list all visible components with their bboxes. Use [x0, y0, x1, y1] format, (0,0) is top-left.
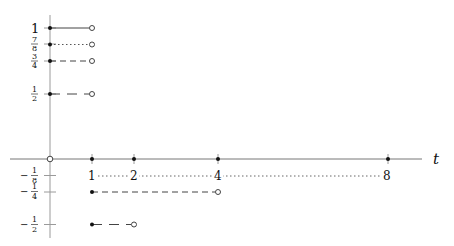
- x-label-4: 4: [214, 169, 222, 183]
- svg-text:1: 1: [32, 166, 37, 175]
- y-label-3-4: 3 4: [31, 52, 38, 70]
- x-label-2: 2: [130, 169, 138, 183]
- svg-text:2: 2: [32, 94, 37, 103]
- svg-text:7: 7: [32, 35, 37, 44]
- y-label-minus-1-2: − 1 2: [20, 215, 38, 234]
- y-label-1: 1: [31, 21, 39, 36]
- svg-text:1: 1: [32, 215, 37, 224]
- x-label-1: 1: [88, 169, 96, 183]
- svg-text:−: −: [20, 219, 28, 230]
- y-label-7-8: 7 8: [31, 35, 38, 53]
- svg-text:1: 1: [32, 182, 37, 191]
- svg-text:4: 4: [32, 61, 37, 70]
- y-label-1-2: 1 2: [31, 85, 38, 103]
- svg-text:1: 1: [32, 85, 37, 94]
- y-label-minus-1-4: − 1 4: [20, 182, 38, 201]
- svg-text:−: −: [20, 186, 28, 197]
- filled-markers: [48, 26, 390, 227]
- x-axis-label: t: [433, 150, 440, 168]
- svg-text:4: 4: [32, 192, 37, 201]
- svg-text:2: 2: [32, 225, 37, 234]
- svg-text:3: 3: [32, 52, 37, 61]
- svg-text:−: −: [20, 170, 28, 181]
- step-function-diagram: t 1 7 8 3 4 1 2 − 1 8 − 1 4 − 1 2 1 2 4: [0, 0, 454, 246]
- x-label-8: 8: [383, 169, 391, 183]
- open-markers: [47, 26, 220, 228]
